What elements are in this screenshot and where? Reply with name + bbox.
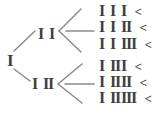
leaf-label-3: I I III <	[99, 35, 152, 52]
top-node-part-1: I	[38, 25, 44, 42]
leaf-5-part-2: II	[110, 73, 121, 90]
branch-top-fork-lower	[59, 31, 81, 52]
leaf-3-part-3: III	[121, 35, 137, 52]
leaf-6-part-1: I	[99, 89, 105, 106]
leaf-6-part-3: III	[121, 89, 137, 106]
bottom-node-part-1: I	[32, 75, 38, 92]
tree-figure: I I I I II I I I < I I	[0, 0, 155, 116]
leaf-1-part-2: I	[110, 2, 116, 19]
leaf-4-marker: <	[135, 59, 142, 74]
leaf-6-marker: <	[145, 91, 152, 106]
tree-diagram-canvas: I I I I II I I I < I I	[0, 0, 155, 116]
leaf-label-6: I II III <	[99, 89, 152, 106]
top-node-part-2: I	[49, 25, 55, 42]
leaf-3-marker: <	[145, 37, 152, 52]
leaf-2-part-1: I	[99, 18, 105, 35]
branch-root-to-bottom-node	[14, 69, 30, 81]
leaf-4-part-2: II	[110, 57, 121, 74]
leaf-2-part-3: II	[121, 18, 132, 35]
leaf-6-part-2: II	[110, 89, 121, 106]
leaf-label-5: I II II <	[99, 73, 147, 90]
leaf-5-marker: <	[140, 75, 147, 90]
leaf-1-marker: <	[135, 4, 142, 19]
leaf-3-part-1: I	[99, 35, 105, 52]
leaf-4-part-1: I	[99, 57, 105, 74]
leaf-3-part-2: I	[110, 35, 116, 52]
branch-bottom-fork-lower	[58, 84, 82, 103]
leaf-1-part-1: I	[99, 2, 105, 19]
branch-bottom-fork-upper	[58, 64, 82, 84]
leaf-4-part-3: I	[121, 57, 127, 74]
leaf-label-4: I II I <	[99, 57, 142, 74]
leaf-2-marker: <	[140, 20, 147, 35]
root-node-label: I	[7, 51, 14, 70]
branch-top-fork-upper	[59, 9, 81, 31]
bottom-node-part-2: II	[43, 75, 54, 92]
leaf-2-part-2: I	[110, 18, 116, 35]
leaf-label-2: I I II <	[99, 18, 147, 35]
leaf-1-part-3: I	[121, 2, 127, 19]
bottom-node-label: I II	[32, 75, 54, 92]
branch-root-to-top-node	[14, 31, 35, 51]
leaf-5-part-3: II	[121, 73, 132, 90]
top-node-label: I I	[38, 25, 55, 42]
leaf-label-1: I I I <	[99, 2, 142, 19]
leaf-5-part-1: I	[99, 73, 105, 90]
